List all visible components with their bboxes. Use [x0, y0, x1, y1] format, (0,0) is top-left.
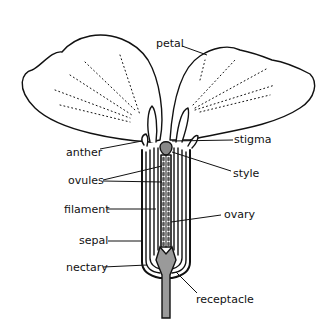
label-sepal: sepal: [79, 235, 108, 247]
right-petal: [170, 47, 315, 140]
label-anther: anther: [66, 147, 102, 159]
stigma: [160, 142, 172, 155]
label-petal: petal: [156, 38, 184, 50]
label-style: style: [233, 168, 259, 180]
label-ovules: ovules: [68, 175, 104, 187]
label-ovary: ovary: [224, 209, 255, 221]
label-filament: filament: [64, 204, 110, 216]
receptacle: [156, 247, 176, 318]
label-receptacle: receptacle: [196, 294, 254, 306]
label-stigma: stigma: [234, 134, 272, 146]
label-nectary: nectary: [66, 262, 108, 274]
left-petal: [22, 35, 162, 142]
